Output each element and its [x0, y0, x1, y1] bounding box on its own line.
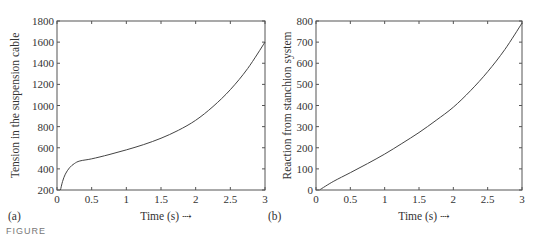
y-tick-label: 100 — [297, 163, 314, 175]
x-tick-label: 1.5 — [412, 193, 426, 205]
x-tick-label: 3 — [519, 193, 525, 205]
y-tick-label: 800 — [297, 15, 314, 27]
y-tick-label: 1000 — [32, 100, 55, 112]
x-tick-label: 1 — [124, 193, 130, 205]
y-tick-label: 0 — [308, 184, 314, 196]
x-tick-label: 2.5 — [223, 193, 237, 205]
series-line-reaction — [319, 23, 522, 190]
chart-panel-a: 00.511.522.53200400600800100012001400160… — [8, 15, 268, 223]
panel-label: (b) — [268, 210, 282, 223]
chart-panel-b: 00.511.522.530100200300400500600700800Ti… — [268, 15, 525, 223]
x-tick-label: 2 — [193, 193, 199, 205]
y-axis-label: Reaction from stanchion system — [281, 32, 294, 180]
y-tick-label: 800 — [38, 121, 55, 133]
y-tick-label: 1200 — [32, 78, 55, 90]
figure-canvas: 00.511.522.53200400600800100012001400160… — [0, 0, 538, 235]
y-tick-label: 400 — [297, 100, 314, 112]
x-tick-label: 0 — [313, 193, 319, 205]
series-line-tension — [60, 42, 265, 190]
plot-frame — [57, 21, 265, 190]
y-tick-label: 600 — [297, 57, 314, 69]
x-tick-label: 3 — [262, 193, 268, 205]
panel-label: (a) — [8, 210, 21, 223]
y-tick-label: 200 — [297, 142, 314, 154]
y-tick-label: 1800 — [32, 15, 55, 27]
y-tick-label: 600 — [38, 142, 55, 154]
y-tick-label: 500 — [297, 78, 314, 90]
x-tick-label: 1 — [382, 193, 388, 205]
y-tick-label: 1400 — [32, 57, 55, 69]
x-tick-label: 1.5 — [154, 193, 168, 205]
y-tick-label: 400 — [38, 163, 55, 175]
x-axis-label: Time (s) ⇢ — [398, 210, 450, 223]
x-tick-label: 2.5 — [481, 193, 495, 205]
x-axis-label: Time (s) ⇢ — [140, 210, 192, 223]
x-tick-label: 0.5 — [85, 193, 99, 205]
y-tick-label: 200 — [38, 184, 55, 196]
x-tick-label: 2 — [451, 193, 457, 205]
y-tick-label: 700 — [297, 36, 314, 48]
figure-caption: FIGURE — [6, 226, 46, 235]
y-tick-label: 1600 — [32, 36, 55, 48]
y-tick-label: 300 — [297, 121, 314, 133]
y-axis-label: Tension in the suspension cable — [9, 33, 22, 178]
x-tick-label: 0 — [54, 193, 60, 205]
plot-frame — [316, 21, 522, 190]
x-tick-label: 0.5 — [343, 193, 357, 205]
